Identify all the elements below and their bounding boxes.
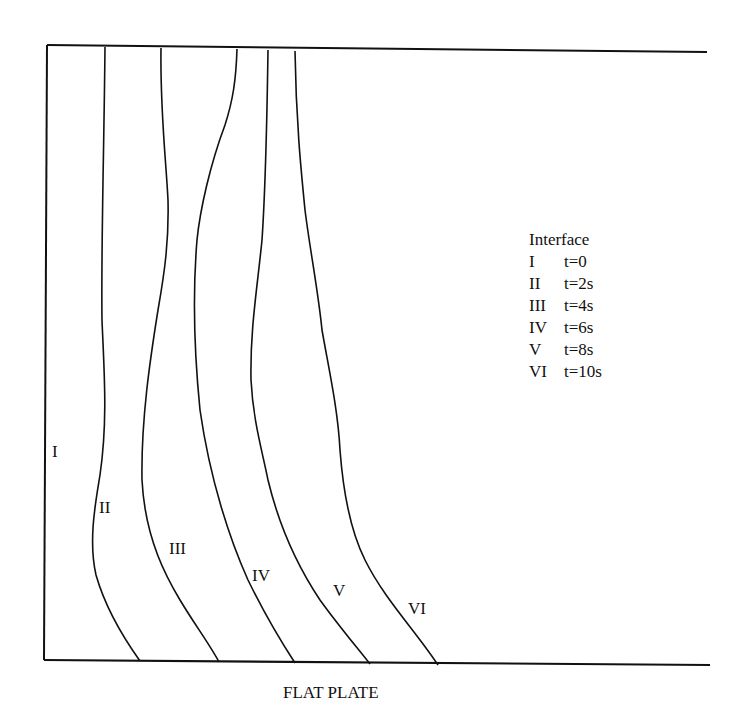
curve-label-iv: IV (252, 566, 271, 585)
interface-diagram: I II III IV V VI (0, 0, 733, 717)
legend-entry-time: t=0 (564, 251, 587, 273)
interface-curve-vi (295, 51, 438, 665)
legend-entry: IV t=6s (529, 317, 602, 339)
interface-curve-iii (142, 48, 219, 662)
legend-entry-time: t=8s (564, 339, 593, 361)
curve-label-iii: III (169, 539, 186, 558)
legend-entry: III t=4s (529, 295, 602, 317)
legend-entry: V t=8s (529, 339, 602, 361)
legend-entry: II t=2s (529, 273, 602, 295)
legend-entry-time: t=6s (564, 317, 593, 339)
figure-caption: FLAT PLATE (283, 683, 379, 703)
legend-entry-time: t=4s (564, 295, 593, 317)
curve-label-vi: VI (408, 599, 426, 618)
legend: Interface I t=0 II t=2s III t=4s IV t=6s… (529, 229, 602, 383)
curve-label-v: V (333, 581, 346, 600)
legend-entry: VI t=10s (529, 361, 602, 383)
legend-entry-id: VI (529, 361, 564, 383)
legend-entry-id: V (529, 339, 564, 361)
legend-entry-time: t=2s (564, 273, 593, 295)
legend-entry-id: II (529, 273, 564, 295)
interface-curve-ii (93, 47, 140, 661)
legend-entry-id: I (529, 251, 564, 273)
legend-entry-time: t=10s (564, 361, 602, 383)
legend-title: Interface (529, 229, 602, 251)
flat-plate-line (44, 660, 710, 665)
left-boundary-line (44, 45, 47, 660)
top-boundary-line (47, 45, 707, 52)
interface-curve-iv (194, 49, 295, 663)
legend-entry: I t=0 (529, 251, 602, 273)
legend-entry-id: III (529, 295, 564, 317)
legend-entry-id: IV (529, 317, 564, 339)
curve-label-ii: II (99, 498, 111, 517)
curve-label-i: I (52, 442, 58, 461)
